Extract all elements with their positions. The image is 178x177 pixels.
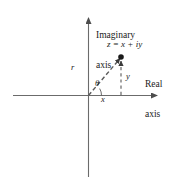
real-axis-label-line2: axis — [145, 110, 162, 120]
angle-theta-label: θ — [95, 79, 99, 88]
radius-label: r — [71, 63, 74, 72]
real-part-label: x — [101, 95, 105, 104]
imaginary-part-label: y — [126, 72, 130, 81]
real-axis-label-line1: Real — [145, 80, 162, 90]
complex-plane-diagram: Imaginary axis Real axis z = x + iy r θ … — [0, 0, 178, 177]
point-z-label: z = x + iy — [107, 40, 142, 49]
imaginary-axis-label-line2: axis — [96, 61, 135, 71]
real-axis-label: Real axis — [145, 60, 162, 140]
